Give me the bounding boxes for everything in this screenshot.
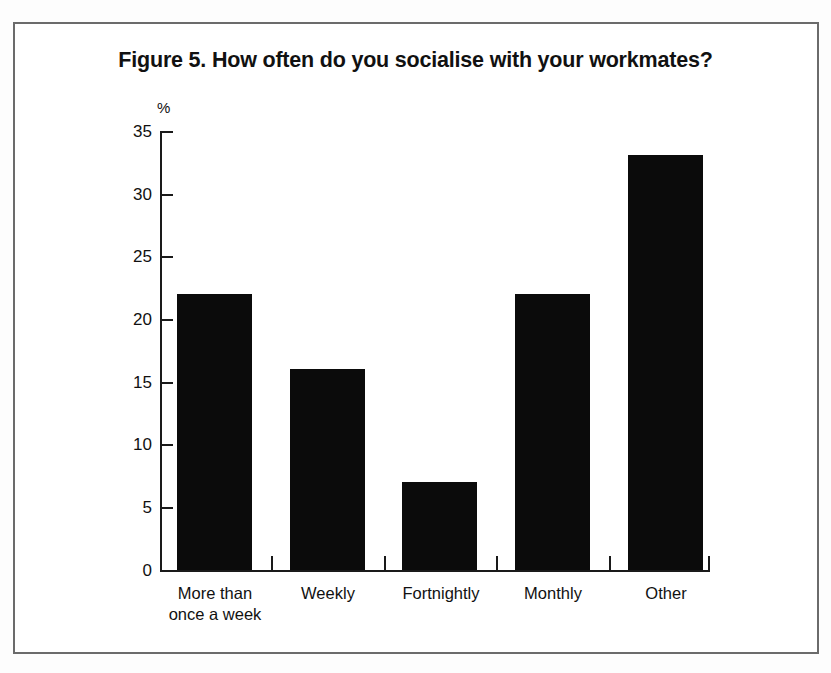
x-axis-end-tick bbox=[708, 556, 710, 572]
y-tick-mark-0 bbox=[162, 570, 173, 572]
y-tick-label-20: 20 bbox=[106, 311, 152, 328]
y-tick-label-15: 15 bbox=[106, 374, 152, 391]
y-tick-mark-10 bbox=[162, 444, 173, 446]
y-tick-mark-35 bbox=[162, 131, 173, 133]
x-tick-mark-1 bbox=[271, 556, 273, 571]
y-tick-mark-20 bbox=[162, 319, 173, 321]
x-tick-mark-2 bbox=[384, 556, 386, 571]
y-tick-label-25: 25 bbox=[106, 248, 152, 265]
bar-fortnightly bbox=[402, 482, 477, 570]
y-tick-mark-15 bbox=[162, 382, 173, 384]
y-tick-mark-30 bbox=[162, 194, 173, 196]
x-tick-mark-4 bbox=[609, 556, 611, 571]
x-category-label-fortnightly: Fortnightly bbox=[385, 583, 497, 604]
plot-area: % 0 5 10 15 20 25 30 35 More than once bbox=[0, 0, 831, 673]
bar-other bbox=[628, 155, 703, 570]
x-category-label-weekly: Weekly bbox=[272, 583, 384, 604]
x-category-label-more-than-once-a-week: More than once a week bbox=[160, 583, 270, 625]
figure-root: Figure 5. How often do you socialise wit… bbox=[0, 0, 831, 673]
y-tick-mark-25 bbox=[162, 256, 173, 258]
y-tick-mark-5 bbox=[162, 507, 173, 509]
y-tick-label-10: 10 bbox=[106, 436, 152, 453]
y-tick-label-35: 35 bbox=[106, 123, 152, 140]
x-axis-line bbox=[160, 570, 710, 572]
y-tick-label-30: 30 bbox=[106, 186, 152, 203]
bar-more-than-once-a-week bbox=[177, 294, 252, 570]
x-tick-mark-3 bbox=[496, 556, 498, 571]
y-axis-unit-label: % bbox=[157, 99, 170, 116]
x-category-label-monthly: Monthly bbox=[497, 583, 609, 604]
bar-weekly bbox=[290, 369, 365, 570]
y-tick-label-0: 0 bbox=[106, 562, 152, 579]
x-category-label-other: Other bbox=[610, 583, 722, 604]
y-tick-label-5: 5 bbox=[106, 499, 152, 516]
bar-monthly bbox=[515, 294, 590, 570]
y-axis-line bbox=[160, 131, 162, 572]
